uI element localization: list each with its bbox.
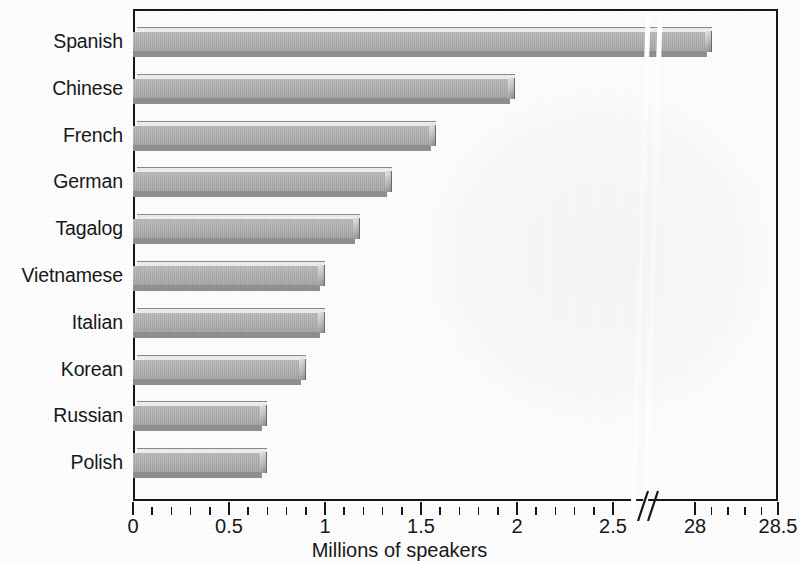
bar-end-cap (429, 125, 436, 146)
bar-end-cap (705, 31, 712, 52)
bar-front-face (133, 172, 387, 191)
bar-end-cap (318, 312, 325, 333)
bar-end-cap (260, 405, 267, 426)
x-tick-label: 1 (319, 516, 330, 536)
bar-chart: SpanishChineseFrenchGermanTagalogVietnam… (0, 0, 799, 561)
category-label: Russian (0, 406, 123, 426)
x-axis-major-tick (694, 502, 696, 515)
bar (133, 27, 712, 57)
bar-bottom-shadow (133, 238, 355, 244)
x-axis-minor-tick (744, 507, 746, 515)
x-axis-minor-tick (382, 507, 384, 515)
x-axis-major-tick (324, 502, 326, 515)
x-axis-major-tick (516, 502, 518, 515)
bar (133, 214, 360, 244)
x-axis-minor-tick (190, 507, 192, 515)
bar (133, 121, 436, 151)
bar-end-cap (385, 171, 392, 192)
x-axis-minor-tick (535, 507, 537, 515)
x-axis-minor-tick (478, 507, 480, 515)
bar-end-cap (353, 218, 360, 239)
x-axis-minor-tick (247, 507, 249, 515)
bar (133, 261, 325, 291)
bar (133, 74, 515, 104)
bar-front-face (133, 126, 431, 145)
x-axis-ticks (0, 501, 799, 515)
bar-bottom-shadow (133, 191, 387, 197)
x-axis-minor-tick (209, 507, 211, 515)
bar-bottom-shadow (133, 472, 262, 478)
x-axis-minor-tick (497, 507, 499, 515)
x-axis-minor-tick (401, 507, 403, 515)
bar-end-cap (260, 452, 267, 473)
category-label: German (0, 172, 123, 192)
x-axis-minor-tick (343, 507, 345, 515)
category-label: Polish (0, 453, 123, 473)
x-axis-minor-tick (727, 507, 729, 515)
category-label: Chinese (0, 79, 123, 99)
bar-front-face (133, 453, 262, 472)
bar-bottom-shadow (133, 145, 431, 151)
bar-front-face (133, 266, 320, 285)
x-axis-major-tick (420, 502, 422, 515)
x-axis-major-tick (228, 502, 230, 515)
x-axis-minor-tick (574, 507, 576, 515)
bar-end-cap (318, 265, 325, 286)
x-axis-minor-tick (363, 507, 365, 515)
bar-bottom-shadow (133, 98, 510, 104)
x-axis-minor-tick (711, 507, 713, 515)
x-axis-title: Millions of speakers (0, 540, 799, 560)
bar (133, 308, 325, 338)
bar-end-cap (508, 78, 515, 99)
bar-bottom-shadow (133, 51, 707, 57)
x-axis-minor-tick (555, 507, 557, 515)
x-tick-label: 1.5 (407, 516, 435, 536)
x-axis-minor-tick (439, 507, 441, 515)
bar (133, 448, 267, 478)
bar-bottom-shadow (133, 425, 262, 431)
bar-front-face (133, 79, 510, 98)
bar-end-cap (299, 359, 306, 380)
x-axis-minor-tick (171, 507, 173, 515)
category-label: Italian (0, 313, 123, 333)
bar-front-face (133, 313, 320, 332)
x-axis-minor-tick (459, 507, 461, 515)
bar (133, 401, 267, 431)
x-tick-label: 0 (127, 516, 138, 536)
category-label: Tagalog (0, 219, 123, 239)
x-axis-minor-tick (761, 507, 763, 515)
bar-bottom-shadow (133, 379, 301, 385)
category-label: Vietnamese (0, 266, 123, 286)
x-axis-major-tick (612, 502, 614, 515)
x-tick-label: 2.5 (599, 516, 627, 536)
x-tick-label: 0.5 (215, 516, 243, 536)
category-label: French (0, 126, 123, 146)
x-tick-label: 28.5 (759, 516, 798, 536)
category-label: Korean (0, 360, 123, 380)
bar-front-face (133, 406, 262, 425)
bar-front-face (133, 219, 355, 238)
x-axis-minor-tick (151, 507, 153, 515)
bar (133, 355, 306, 385)
x-axis-major-tick (777, 502, 779, 515)
x-tick-label: 2 (511, 516, 522, 536)
bar-bottom-shadow (133, 285, 320, 291)
x-axis-minor-tick (593, 507, 595, 515)
bar-front-face (133, 32, 707, 51)
bar-front-face (133, 360, 301, 379)
x-axis-minor-tick (286, 507, 288, 515)
x-axis-major-tick (132, 502, 134, 515)
bar-bottom-shadow (133, 332, 320, 338)
category-label: Spanish (0, 32, 123, 52)
x-tick-label: 28 (684, 516, 706, 536)
bar (133, 167, 392, 197)
x-axis-minor-tick (305, 507, 307, 515)
x-axis-minor-tick (267, 507, 269, 515)
